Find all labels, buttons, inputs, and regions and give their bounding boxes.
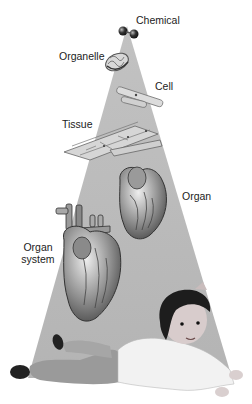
label-organ-system: Organ system <box>18 241 58 265</box>
label-organ-system-line1: Organ <box>18 241 58 253</box>
label-organ-system-line2: system <box>18 253 58 265</box>
levels-of-organization-diagram: Chemical Organelle Cell Tissue Organ Org… <box>0 0 252 404</box>
label-cell: Cell <box>155 80 173 92</box>
label-organelle: Organelle <box>59 50 105 62</box>
diagram-illustration <box>0 0 252 404</box>
label-tissue: Tissue <box>62 118 93 130</box>
label-organ: Organ <box>182 190 211 202</box>
label-chemical: Chemical <box>136 14 180 26</box>
